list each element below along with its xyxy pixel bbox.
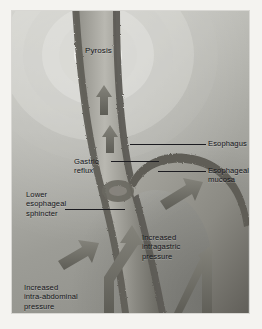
anatomy-illustration	[12, 11, 249, 313]
figure-canvas: Pyrosis Esophagus Esophageal mucosa Lowe…	[0, 0, 262, 329]
lower-esophageal-sphincter	[102, 180, 134, 202]
abdominal-arrow-right-stem	[198, 245, 212, 313]
label-pyrosis: Pyrosis	[85, 46, 112, 55]
label-esophagus: Esophagus	[208, 139, 247, 148]
label-gastric-reflux: Gastric reflux	[74, 157, 99, 176]
label-lower-esophageal-sphincter: Lower esophageal sphincter	[26, 190, 66, 218]
label-increased-intragastric-pressure: Increased intragastric pressure	[142, 233, 180, 261]
leader-line-esophagus	[130, 144, 206, 145]
leader-line-esophageal-mucosa	[158, 171, 206, 172]
illustration-frame: Pyrosis Esophagus Esophageal mucosa Lowe…	[11, 10, 250, 314]
label-esophageal-mucosa: Esophageal mucosa	[208, 166, 249, 185]
abdominal-arrow-left	[58, 240, 99, 270]
label-increased-intraabdominal-pressure: Increased intra-abdominal pressure	[24, 283, 78, 311]
leader-line-gastric-reflux	[111, 161, 159, 162]
leader-line-lower-esophageal-sphincter	[65, 209, 125, 210]
